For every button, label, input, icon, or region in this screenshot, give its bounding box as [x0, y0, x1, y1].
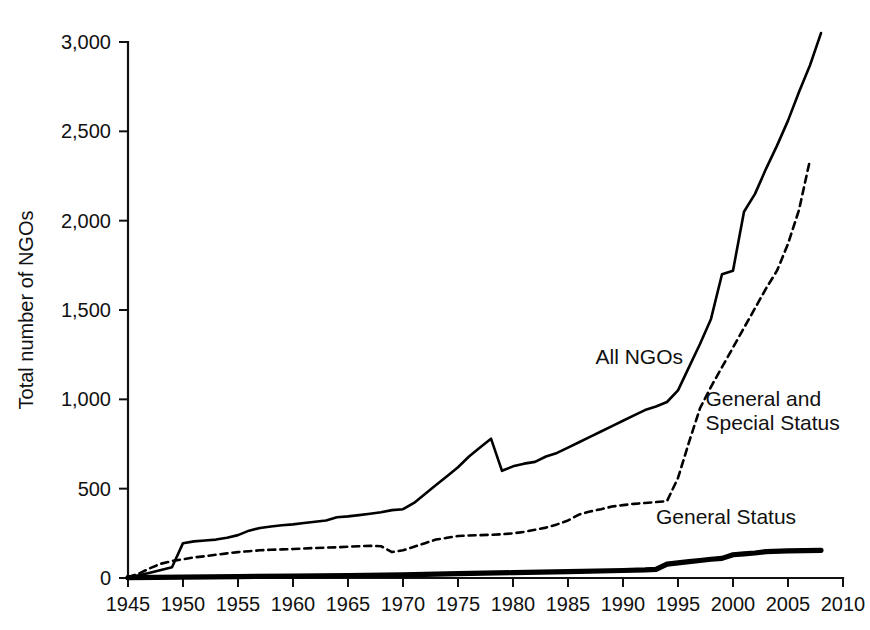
y-tick-label-1500: 1,500 [61, 299, 111, 321]
series-label-general-and-special-status: General andSpecial Status [706, 387, 840, 434]
x-tick-label-1965: 1965 [326, 593, 371, 615]
y-tick-label-1000: 1,000 [61, 388, 111, 410]
x-tick-label-1960: 1960 [271, 593, 316, 615]
series-label-general-status: General Status [656, 505, 796, 528]
ngo-line-chart: 05001,0001,5002,0002,5003,000 1945195019… [0, 0, 870, 630]
y-tick-label-0: 0 [100, 567, 111, 589]
y-axis-title: Total number of NGOs [15, 211, 37, 410]
series-group [128, 33, 821, 578]
x-tick-label-1985: 1985 [546, 593, 591, 615]
y-tick-label-2000: 2,000 [61, 210, 111, 232]
y-tick-label-3000: 3,000 [61, 31, 111, 53]
x-tick-label-1990: 1990 [601, 593, 646, 615]
series-line-all-ngos [128, 33, 821, 577]
y-axis-ticks [119, 42, 128, 578]
x-tick-label-1955: 1955 [216, 593, 261, 615]
series-line-general-status [128, 550, 821, 577]
x-tick-label-1970: 1970 [381, 593, 426, 615]
series-label-line: General Status [656, 505, 796, 528]
x-axis-tick-labels: 1945195019551960196519701975198019851990… [106, 593, 866, 615]
x-axis-ticks [128, 578, 843, 587]
y-tick-label-500: 500 [78, 478, 111, 500]
x-tick-label-1995: 1995 [656, 593, 701, 615]
series-label-line: All NGOs [596, 345, 684, 368]
series-label-all-ngos: All NGOs [596, 345, 684, 368]
y-tick-label-2500: 2,500 [61, 120, 111, 142]
series-label-line: General and [706, 387, 822, 410]
x-tick-label-2010: 2010 [821, 593, 866, 615]
x-tick-label-2000: 2000 [711, 593, 756, 615]
y-axis-tick-labels: 05001,0001,5002,0002,5003,000 [61, 31, 111, 589]
chart-container: 05001,0001,5002,0002,5003,000 1945195019… [0, 0, 870, 630]
x-tick-label-1945: 1945 [106, 593, 151, 615]
x-tick-label-2005: 2005 [766, 593, 811, 615]
x-tick-label-1950: 1950 [161, 593, 206, 615]
x-tick-label-1975: 1975 [436, 593, 481, 615]
series-label-line: Special Status [706, 411, 840, 434]
x-tick-label-1980: 1980 [491, 593, 536, 615]
